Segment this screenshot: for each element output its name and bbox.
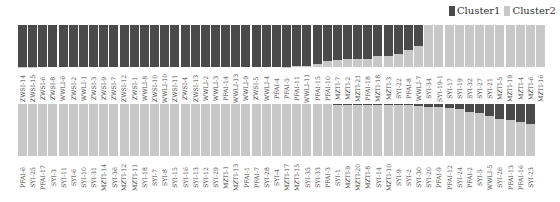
bar-label: PFAI-1	[242, 167, 249, 188]
bar: SYI-34	[424, 25, 433, 67]
cluster1-segment	[59, 25, 68, 67]
bar: PFAI-5	[282, 25, 291, 67]
cluster2-segment	[414, 46, 423, 67]
bar-label: PFAI-6	[19, 167, 26, 188]
bar-label: SYI-5	[476, 169, 483, 186]
cluster2-segment	[191, 104, 200, 156]
bar-label: SYI-29	[212, 167, 219, 188]
bar-label: SYI-30	[415, 167, 422, 188]
cluster2-segment	[302, 104, 311, 156]
bar-label: ZWSI-8	[49, 76, 56, 99]
cluster1-segment	[373, 25, 382, 56]
cluster1-segment	[181, 25, 190, 67]
bar-label: ZWSI-4	[182, 76, 189, 99]
bar-label: PFAI-16	[517, 165, 524, 190]
bar-label: MZTI-13	[232, 163, 239, 190]
bar: SYI-27	[475, 25, 484, 67]
cluster2-segment	[262, 104, 271, 156]
bar: PFAI-15	[313, 25, 322, 67]
bar-label: SYI-25	[29, 167, 36, 188]
bar-label: ZWSI-9	[100, 76, 107, 99]
bar-label: ZWSI-12	[121, 74, 128, 101]
bar-label: ZWSI-5	[253, 76, 260, 99]
cluster1-segment	[353, 25, 362, 59]
cluster2-segment	[28, 104, 37, 156]
bar-label: ZWSI-1	[131, 76, 138, 99]
bar: MZTI-15	[292, 104, 301, 156]
bar-label: WWLI-7	[415, 75, 422, 100]
bar-label: SYI-22	[395, 78, 402, 99]
bar-label: SYI-24	[456, 167, 463, 188]
cluster2-segment	[363, 105, 372, 156]
cluster1-segment	[414, 25, 423, 46]
cluster1-segment	[79, 25, 88, 67]
bar: ZWSI-11	[170, 25, 179, 67]
bar-label: MZTI-3	[385, 76, 392, 99]
bar-label: WWLI-11	[303, 73, 310, 102]
bar: PFAI-7	[252, 104, 261, 156]
bar: SYI-19-1	[434, 25, 443, 67]
cluster2-segment	[120, 104, 129, 156]
bar-label: ZWSI-11	[171, 74, 178, 101]
cluster2-segment	[424, 25, 433, 67]
cluster2-segment	[313, 104, 322, 156]
bar: MZTI-19	[506, 25, 515, 67]
bar-label: SYI-19-1	[435, 75, 442, 102]
bar: SYI-33	[313, 104, 322, 156]
cluster2-segment	[394, 54, 403, 67]
bar: MZTI-12	[120, 104, 129, 156]
cluster1-segment	[28, 25, 37, 67]
cluster1-segment	[323, 25, 332, 61]
bar-label: PFAI-14	[222, 76, 229, 101]
bar: PFAI-12	[445, 104, 454, 156]
cluster2-segment	[323, 61, 332, 67]
cluster1-segment	[89, 25, 98, 67]
cluster1-segment	[69, 25, 78, 67]
bar: ZWSI-1	[130, 25, 139, 67]
bar-label: SYI-13	[192, 167, 199, 188]
cluster1-segment	[130, 25, 139, 67]
bar: WWLI-3	[211, 25, 220, 67]
bar-label: WWLI-1	[80, 75, 87, 100]
cluster2-segment	[48, 104, 57, 156]
bar-label: PFAI-18	[364, 76, 371, 101]
bar-label: SYI-20	[425, 167, 432, 188]
cluster2-segment	[343, 105, 352, 156]
cluster2-segment	[384, 56, 393, 67]
cluster1-segment	[465, 104, 474, 112]
bar-label: SYI-1	[334, 169, 341, 186]
cluster1-segment	[506, 104, 515, 120]
bar-label: PFAI-7	[253, 167, 260, 188]
bar-label: SYI-10	[80, 167, 87, 188]
cluster1-segment	[516, 104, 525, 122]
bar-label: SYI-27	[476, 78, 483, 99]
cluster1-segment	[18, 25, 27, 67]
bar-label: MZTI-12	[121, 163, 128, 190]
bar-label: SYI-19	[456, 78, 463, 99]
cluster1-segment	[120, 25, 129, 67]
cluster2-segment	[221, 104, 230, 156]
bar-label: SYI-33	[314, 167, 321, 188]
bar-label: SYI-18	[141, 167, 148, 188]
bar: MZTI-10	[384, 104, 393, 156]
bar: SYI-2	[404, 104, 413, 156]
bar: MZTI-11	[130, 104, 139, 156]
bar: MZTI-4	[516, 25, 525, 67]
cluster1-segment	[333, 25, 342, 60]
bar: ZWSI-13	[191, 25, 200, 67]
bar-label: PFAI-15	[314, 76, 321, 101]
bar: SYI-32	[465, 25, 474, 67]
cluster1-segment	[48, 25, 57, 67]
cluster2-segment	[282, 104, 291, 156]
bar: SYI-10	[79, 104, 88, 156]
cluster2-segment	[526, 25, 535, 67]
cluster2-segment	[455, 25, 464, 67]
cluster2-segment	[475, 113, 484, 156]
bar: WWLI-8	[140, 25, 149, 67]
bar: PFAI-10	[323, 25, 332, 67]
bar-label: SYI-6	[70, 169, 77, 186]
bar-label: ZWSI-15	[29, 74, 36, 101]
bar: MZTI-14	[99, 104, 108, 156]
bar-label: WWLI-5	[486, 164, 493, 189]
cluster1-segment	[475, 104, 484, 113]
